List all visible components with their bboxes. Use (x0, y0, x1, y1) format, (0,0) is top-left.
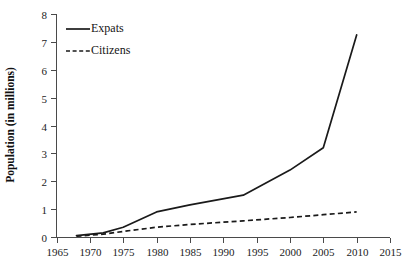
x-tick-marks (58, 238, 391, 244)
x-tick-label: 2015 (380, 246, 403, 258)
x-tick-label: 1980 (147, 246, 170, 258)
x-tick-label: 2010 (347, 246, 370, 258)
chart-canvas: 012345678 Population (in millions) 19651… (0, 0, 410, 267)
legend-label-expats: Expats (91, 21, 124, 35)
x-tick-labels: 1965197019751980198519901995200020052010… (47, 246, 403, 258)
x-tick-label: 2005 (313, 246, 336, 258)
x-tick-label: 1995 (247, 246, 270, 258)
x-tick-label: 1990 (213, 246, 236, 258)
y-tick-label: 8 (42, 9, 48, 21)
x-tick-label: 1975 (113, 246, 136, 258)
y-tick-label: 6 (42, 65, 48, 77)
y-tick-label: 1 (42, 204, 48, 216)
legend: Expats Citizens (66, 21, 131, 57)
x-tick-label: 1965 (47, 246, 70, 258)
x-axis-group: 1965197019751980198519901995200020052010… (47, 238, 403, 259)
x-tick-label: 2000 (280, 246, 303, 258)
x-tick-label: 1985 (180, 246, 203, 258)
y-axis-title: Population (in millions) (4, 67, 17, 183)
series-group (77, 35, 357, 236)
y-tick-labels: 012345678 (42, 9, 48, 244)
y-tick-label: 4 (42, 121, 48, 133)
legend-label-citizens: Citizens (91, 43, 131, 57)
y-tick-label: 3 (42, 148, 48, 160)
y-axis-group: 012345678 Population (in millions) (4, 9, 57, 244)
y-tick-marks (51, 15, 57, 238)
series-line-citizens (77, 212, 357, 236)
y-tick-label: 0 (42, 232, 48, 244)
series-line-expats (77, 35, 357, 236)
x-tick-label: 1970 (80, 246, 103, 258)
y-tick-label: 2 (42, 176, 48, 188)
line-chart: 012345678 Population (in millions) 19651… (0, 0, 410, 267)
y-tick-label: 7 (42, 37, 48, 49)
y-tick-label: 5 (42, 93, 48, 105)
